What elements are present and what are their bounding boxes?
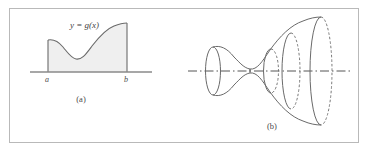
axis-label-b: b: [124, 75, 128, 84]
curve-label-y-equals-g-of-x: y = g(x): [69, 20, 99, 30]
panel-b-caption: (b): [267, 121, 277, 131]
panel-a-caption: (a): [76, 94, 86, 104]
figure-canvas: y = g(x) a b (a): [0, 0, 369, 153]
solid-bottom-silhouette: [213, 73, 321, 125]
figure-container: y = g(x) a b (a): [0, 0, 369, 153]
panel-b: (b): [188, 17, 352, 131]
panel-a: y = g(x) a b (a): [30, 20, 152, 104]
axis-label-a: a: [45, 75, 49, 84]
solid-top-silhouette: [213, 17, 321, 69]
shaded-region-under-curve: [48, 23, 127, 72]
